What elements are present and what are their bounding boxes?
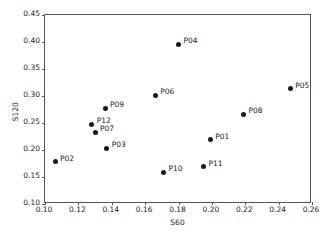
x-axis-label: S60 (44, 219, 311, 227)
data-point-marker (201, 164, 206, 169)
data-point-marker (176, 42, 181, 47)
plot-area: P02P12P07P09P03P06P10P04P11P01P08P05 (44, 14, 311, 203)
y-axis-tick (42, 69, 45, 70)
y-axis-tick (42, 150, 45, 151)
y-axis-tick (42, 123, 45, 124)
y-axis-tick (42, 177, 45, 178)
y-axis-tick-label: 0.15 (23, 172, 40, 180)
x-axis-tick-label: 0.18 (169, 206, 186, 214)
data-point-label: P03 (112, 141, 126, 149)
y-axis-tick (42, 42, 45, 43)
data-point-label: P05 (295, 82, 309, 90)
data-point-label: P09 (110, 101, 124, 109)
y-axis-tick (42, 96, 45, 97)
x-axis-tick-label: 0.22 (236, 206, 253, 214)
data-point-marker (208, 137, 213, 142)
x-axis-tick-label: 0.24 (269, 206, 286, 214)
x-axis-tick-label: 0.14 (102, 206, 119, 214)
data-point-label: P06 (160, 88, 174, 96)
data-point-marker (103, 106, 108, 111)
data-point-marker (104, 146, 109, 151)
data-point-marker (288, 86, 293, 91)
y-axis-tick-label: 0.20 (23, 145, 40, 153)
data-point-marker (161, 170, 166, 175)
x-axis-tick-label: 0.12 (69, 206, 86, 214)
data-point-marker (53, 159, 58, 164)
data-point-label: P04 (184, 37, 198, 45)
y-axis-tick-label: 0.10 (23, 199, 40, 207)
data-point-label: P10 (168, 165, 182, 173)
y-axis-label: S120 (12, 82, 20, 142)
data-point-label: P02 (60, 155, 74, 163)
y-axis-tick-label: 0.35 (23, 64, 40, 72)
data-point-marker (241, 112, 246, 117)
data-point-label: P01 (215, 133, 229, 141)
data-point-label: P08 (249, 107, 263, 115)
x-axis-tick-label: 0.20 (203, 206, 220, 214)
data-point-marker (153, 93, 158, 98)
data-point-marker (93, 130, 98, 135)
x-axis-tick-label: 0.26 (303, 206, 320, 214)
x-axis-tick-label: 0.16 (136, 206, 153, 214)
y-axis-tick-label: 0.30 (23, 91, 40, 99)
y-axis-tick-label: 0.45 (23, 10, 40, 18)
data-point-marker (89, 122, 94, 127)
y-axis-tick-label: 0.25 (23, 118, 40, 126)
scatter-plot-figure: S120 P02P12P07P09P03P06P10P04P11P01P08P0… (0, 0, 334, 238)
y-axis-tick (42, 15, 45, 16)
data-point-label: P11 (209, 160, 223, 168)
data-point-label: P07 (100, 125, 114, 133)
y-axis-tick-label: 0.40 (23, 37, 40, 45)
